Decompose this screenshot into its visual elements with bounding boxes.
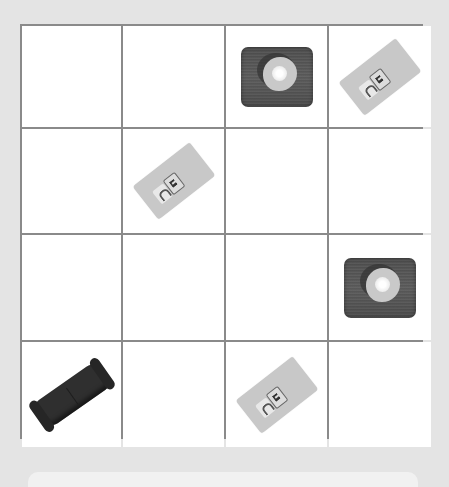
cell-r0-c0[interactable]: [22, 26, 121, 127]
cell-r0-c3[interactable]: [329, 26, 431, 127]
plate-center: [375, 277, 390, 292]
card-icon[interactable]: [339, 38, 422, 115]
cell-r1-c2[interactable]: [226, 129, 327, 233]
plate-icon: [366, 268, 400, 302]
cell-r2-c1[interactable]: [123, 235, 224, 340]
wood-mat-plate-icon[interactable]: [241, 47, 313, 107]
cell-r3-c1[interactable]: [123, 342, 224, 447]
sofa-seam: [66, 387, 78, 404]
cell-r3-c0[interactable]: [22, 342, 121, 447]
cell-r2-c2[interactable]: [226, 235, 327, 340]
cell-r2-c3[interactable]: [329, 235, 431, 340]
card-icon[interactable]: [132, 142, 215, 219]
game-stage: [0, 0, 449, 487]
cell-r2-c0[interactable]: [22, 235, 121, 340]
cell-r1-c3[interactable]: [329, 129, 431, 233]
cell-r1-c0[interactable]: [22, 129, 121, 233]
bottom-panel: [28, 472, 418, 487]
cell-r0-c1[interactable]: [123, 26, 224, 127]
cell-r0-c2[interactable]: [226, 26, 327, 127]
game-board: [20, 24, 423, 439]
cell-r1-c1[interactable]: [123, 129, 224, 233]
sofa-icon[interactable]: [32, 360, 111, 428]
plate-center: [272, 66, 287, 81]
wood-mat-plate-icon[interactable]: [344, 258, 416, 318]
card-icon[interactable]: [235, 356, 318, 433]
plate-icon: [263, 57, 297, 91]
cell-r3-c3[interactable]: [329, 342, 431, 447]
cell-r3-c2[interactable]: [226, 342, 327, 447]
